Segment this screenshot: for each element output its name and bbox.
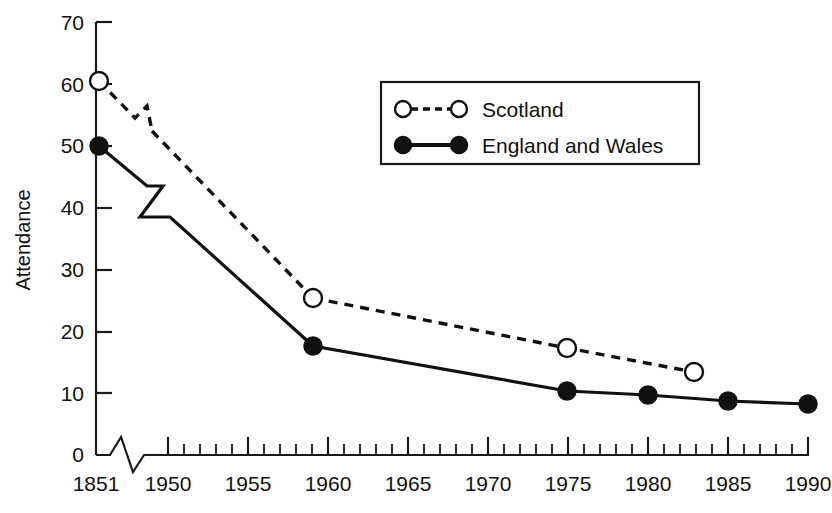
data-point-scotland-1851: [90, 72, 108, 90]
data-point-england-1975: [558, 382, 576, 400]
y-tick-label-70: 70: [61, 11, 84, 34]
data-point-england-1985: [719, 392, 737, 410]
data-point-england-1959: [304, 337, 322, 355]
legend-marker-filled-circle-icon-2: [451, 137, 468, 154]
data-point-scotland-1984: [685, 363, 703, 381]
x-tick-label-1975: 1975: [545, 472, 592, 495]
x-tick-label-1851: 1851: [73, 472, 120, 495]
x-tick-label-1985: 1985: [705, 472, 752, 495]
x-axis-spine-with-break: [96, 437, 809, 472]
chart-legend: Scotland England and Wales: [381, 82, 699, 164]
y-tick-label-10: 10: [61, 382, 84, 405]
x-tick-label-1960: 1960: [305, 472, 352, 495]
data-point-scotland-1959: [304, 289, 322, 307]
x-tick-label-1955: 1955: [225, 472, 272, 495]
y-tick-labels: 0 10 20 30 40 50 60 70: [61, 11, 84, 466]
y-tick-label-50: 50: [61, 134, 84, 157]
x-tick-label-1990: 1990: [785, 472, 832, 495]
y-tick-label-0: 0: [72, 443, 84, 466]
data-point-england-1851: [90, 137, 108, 155]
chart-container: Attendance 0 10 20 30 40 50 60 70: [0, 0, 832, 513]
y-axis-label-text: Attendance: [12, 189, 34, 290]
data-point-scotland-1975: [558, 339, 576, 357]
x-tick-label-1980: 1980: [625, 472, 672, 495]
legend-marker-open-circle-icon-2: [451, 101, 467, 117]
x-tick-labels: 1851 1950 1955 1960 1965 1970 1975 1980 …: [73, 472, 832, 495]
x-tick-label-1970: 1970: [465, 472, 512, 495]
y-tick-label-60: 60: [61, 73, 84, 96]
x-tick-label-1965: 1965: [385, 472, 432, 495]
data-point-england-1979: [639, 386, 657, 404]
x-tick-label-1950: 1950: [145, 472, 192, 495]
y-tick-label-30: 30: [61, 258, 84, 281]
y-tick-label-40: 40: [61, 196, 84, 219]
attendance-line-chart: Attendance 0 10 20 30 40 50 60 70: [0, 0, 832, 513]
legend-label-england-and-wales: England and Wales: [482, 134, 663, 157]
legend-label-scotland: Scotland: [482, 98, 564, 121]
y-tick-label-20: 20: [61, 320, 84, 343]
legend-marker-open-circle-icon: [395, 101, 411, 117]
y-axis-label: Attendance: [12, 189, 34, 290]
data-point-england-1989: [799, 395, 817, 413]
